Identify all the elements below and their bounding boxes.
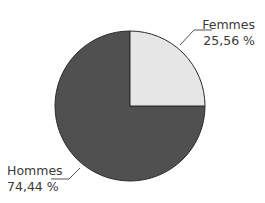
label-femmes-value: 25,56 % [202,33,255,49]
label-femmes-name: Femmes [202,17,255,33]
label-femmes: Femmes 25,56 % [202,17,255,49]
label-hommes-name: Hommes [7,163,63,179]
slice-femmes [130,31,205,106]
label-hommes: Hommes 74,44 % [7,163,63,195]
label-hommes-value: 74,44 % [7,179,63,195]
